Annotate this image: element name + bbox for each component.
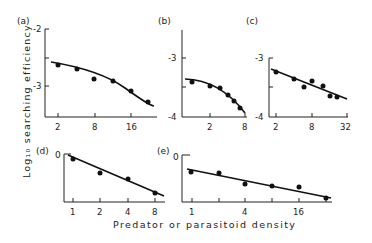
fit-line-d (68, 155, 164, 196)
svg-text:-2: -2 (33, 24, 41, 34)
svg-text:4: 4 (125, 207, 130, 217)
panel-label-d: (d) (36, 146, 49, 156)
svg-text:2: 2 (97, 207, 102, 217)
figure: Log₁₀ searching efficiency (a) -2 -3 2 8… (0, 0, 372, 243)
svg-text:32: 32 (340, 122, 351, 132)
panel-e: (e) 0 1 4 16 (157, 146, 332, 217)
svg-text:8: 8 (152, 207, 157, 217)
svg-text:-3: -3 (168, 53, 176, 63)
svg-text:-4: -4 (255, 112, 263, 122)
svg-text:8: 8 (92, 122, 97, 132)
y-axis-label: Log₁₀ searching efficiency (21, 24, 32, 178)
panel-a: (a) -2 -3 2 8 16 (17, 16, 157, 132)
fit-curve-b (185, 79, 245, 113)
panel-label-a: (a) (17, 16, 30, 26)
svg-text:1: 1 (70, 207, 75, 217)
svg-text:2: 2 (273, 122, 278, 132)
svg-text:2: 2 (207, 122, 212, 132)
panel-d: (d) 0 1 2 4 8 (36, 146, 165, 217)
x-axis-label: Predator or parasitoid density (113, 219, 296, 230)
panel-label-e: (e) (157, 146, 170, 156)
svg-text:-3: -3 (255, 53, 263, 63)
svg-text:-4: -4 (168, 112, 176, 122)
panel-c: (c) -3 -4 2 8 32 (246, 16, 351, 132)
svg-text:0: 0 (55, 150, 61, 160)
svg-text:16: 16 (126, 122, 137, 132)
svg-text:8: 8 (309, 122, 314, 132)
panel-label-b: (b) (158, 16, 171, 26)
fit-line-e (187, 169, 331, 198)
panel-label-c: (c) (246, 16, 258, 26)
svg-text:-3: -3 (33, 81, 41, 91)
panel-b: (b) -3 -4 2 8 (158, 16, 247, 132)
svg-text:2: 2 (55, 122, 60, 132)
fit-line-c (271, 69, 347, 99)
svg-text:4: 4 (242, 207, 247, 217)
svg-text:16: 16 (293, 207, 304, 217)
svg-text:0: 0 (173, 152, 179, 162)
svg-text:1: 1 (189, 207, 194, 217)
fit-curve-a (51, 62, 154, 106)
svg-text:8: 8 (242, 122, 247, 132)
